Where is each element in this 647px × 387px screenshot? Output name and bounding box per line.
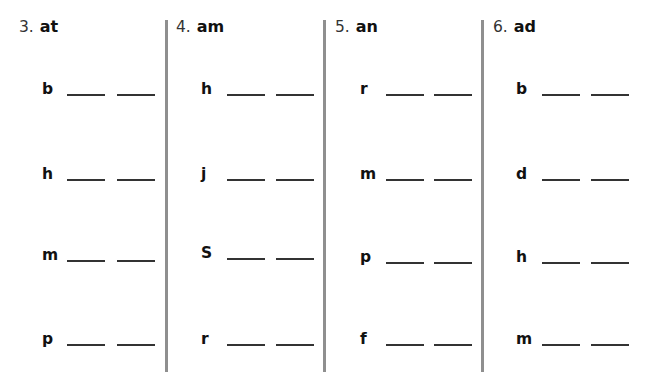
answer-blank[interactable]: [227, 258, 265, 260]
answer-blank[interactable]: [386, 179, 424, 181]
answer-blank[interactable]: [542, 94, 580, 96]
answer-blank[interactable]: [542, 262, 580, 264]
starting-letter: b: [42, 80, 53, 98]
starting-letter: r: [201, 330, 209, 348]
exercise-number: 3.: [19, 18, 34, 36]
word-row: b: [42, 80, 162, 100]
word-row: h: [42, 165, 162, 185]
answer-blank[interactable]: [227, 179, 265, 181]
word-family: at: [40, 17, 58, 36]
answer-blank[interactable]: [276, 258, 314, 260]
exercise-number: 6.: [493, 18, 508, 36]
answer-blank[interactable]: [591, 179, 629, 181]
exercise-header: 3.at: [19, 17, 58, 36]
exercise-number: 5.: [335, 18, 350, 36]
starting-letter: p: [42, 330, 53, 348]
answer-blank[interactable]: [591, 94, 629, 96]
word-family: am: [197, 17, 224, 36]
answer-blank[interactable]: [434, 94, 472, 96]
word-family: an: [356, 17, 378, 36]
answer-blank[interactable]: [227, 94, 265, 96]
word-row: m: [42, 246, 162, 266]
starting-letter: p: [360, 248, 371, 266]
answer-blank[interactable]: [542, 344, 580, 346]
word-row: p: [42, 330, 162, 350]
answer-blank[interactable]: [67, 260, 105, 262]
answer-blank[interactable]: [434, 344, 472, 346]
answer-blank[interactable]: [386, 344, 424, 346]
starting-letter: m: [360, 165, 376, 183]
starting-letter: r: [360, 80, 368, 98]
answer-blank[interactable]: [542, 179, 580, 181]
word-row: m: [360, 165, 480, 185]
answer-blank[interactable]: [386, 262, 424, 264]
word-row: d: [516, 165, 641, 185]
answer-blank[interactable]: [67, 179, 105, 181]
answer-blank[interactable]: [591, 262, 629, 264]
answer-blank[interactable]: [67, 94, 105, 96]
exercise-column-5: 5.an r m p f: [326, 0, 482, 387]
exercise-header: 4.am: [176, 17, 224, 36]
answer-blank[interactable]: [117, 260, 155, 262]
word-row: h: [516, 248, 641, 268]
word-row: f: [360, 330, 480, 350]
answer-blank[interactable]: [117, 94, 155, 96]
exercise-column-4: 4.am h j S r: [168, 0, 324, 387]
word-row: b: [516, 80, 641, 100]
starting-letter: m: [42, 246, 58, 264]
exercise-number: 4.: [176, 18, 191, 36]
answer-blank[interactable]: [276, 179, 314, 181]
answer-blank[interactable]: [117, 344, 155, 346]
exercise-column-6: 6.ad b d h m: [484, 0, 647, 387]
starting-letter: f: [360, 330, 367, 348]
starting-letter: d: [516, 165, 527, 183]
starting-letter: h: [201, 80, 212, 98]
answer-blank[interactable]: [276, 94, 314, 96]
exercise-header: 6.ad: [493, 17, 536, 36]
word-row: r: [201, 330, 321, 350]
word-row: p: [360, 248, 480, 268]
word-row: h: [201, 80, 321, 100]
starting-letter: h: [516, 248, 527, 266]
word-family: ad: [514, 17, 536, 36]
starting-letter: j: [201, 165, 206, 183]
answer-blank[interactable]: [434, 262, 472, 264]
answer-blank[interactable]: [434, 179, 472, 181]
word-row: m: [516, 330, 641, 350]
answer-blank[interactable]: [67, 344, 105, 346]
exercise-column-3: 3.at b h m p: [0, 0, 166, 387]
answer-blank[interactable]: [227, 344, 265, 346]
starting-letter: b: [516, 80, 527, 98]
word-row: S: [201, 244, 321, 264]
starting-letter: S: [201, 244, 212, 262]
answer-blank[interactable]: [386, 94, 424, 96]
exercise-header: 5.an: [335, 17, 378, 36]
answer-blank[interactable]: [276, 344, 314, 346]
answer-blank[interactable]: [117, 179, 155, 181]
starting-letter: h: [42, 165, 53, 183]
answer-blank[interactable]: [591, 344, 629, 346]
word-row: r: [360, 80, 480, 100]
starting-letter: m: [516, 330, 532, 348]
word-row: j: [201, 165, 321, 185]
